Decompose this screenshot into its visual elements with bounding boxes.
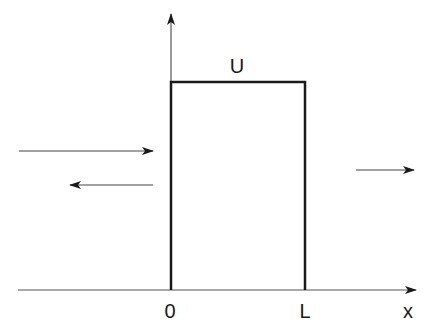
barrier-diagram: U 0 L x — [0, 0, 440, 332]
barrier-height-label: U — [230, 55, 244, 77]
barrier-width-label: L — [299, 300, 310, 322]
x-axis-label: x — [403, 300, 413, 322]
potential-barrier — [171, 82, 305, 290]
origin-label: 0 — [164, 300, 175, 322]
